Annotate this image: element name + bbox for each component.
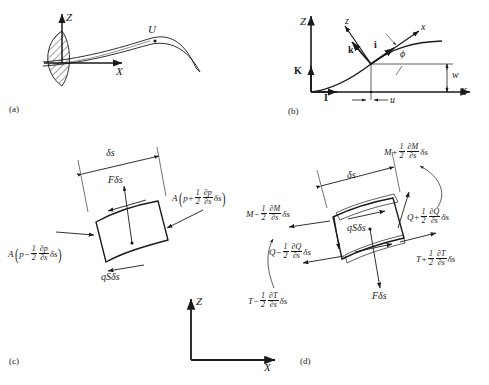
tension-minus-suffix: δs [280, 296, 288, 306]
shear-plus-derivative: ∂Q∂s [428, 208, 442, 225]
panel-c-ds-label: δs [106, 148, 115, 158]
tension-minus-expression: T−12∂T∂sδs [248, 292, 287, 309]
element-centroid [130, 241, 133, 244]
d-force-F-arrow [370, 229, 380, 288]
panel-c-graphics [56, 147, 203, 271]
panel-d-force-qS-label: qSδs [347, 223, 366, 233]
displacement-w-label: w [452, 70, 459, 80]
d-element-centroid [368, 227, 371, 230]
shear-plus-half: 12 [420, 208, 428, 225]
panel-b-tag: (b) [288, 107, 299, 116]
ds-dimension-arrow [82, 156, 159, 174]
panel-a-x-label: X [116, 66, 123, 77]
angle-phi-label: ϕ [400, 49, 405, 59]
unit-vector-I-label: I [324, 93, 328, 103]
panel-d-tag: (d) [300, 357, 311, 366]
phi-leader [396, 66, 402, 75]
velocity-label: U [148, 24, 156, 35]
shear-minus-suffix: δs [303, 247, 311, 257]
pressure-minus-open-paren: ( [15, 246, 19, 263]
pressure-minus-expression: A(p−12∂p∂sδs) [8, 245, 63, 263]
moment-minus-half: 12 [260, 205, 268, 222]
undeformed-point [370, 91, 373, 94]
panel-b-x-label: X [460, 86, 467, 97]
shared-x-label: X [264, 362, 271, 373]
pressure-plus-suffix: δs [214, 193, 222, 203]
tension-plus-half: 12 [427, 250, 435, 267]
pressure-plus-prefix: A [172, 193, 178, 203]
d-ds-ext-left [317, 170, 327, 208]
moment-minus-arrow [289, 221, 330, 227]
panel-c-force-F-label: Fδs [108, 175, 123, 185]
panel-b-graphics [311, 16, 470, 100]
pressure-plus-derivative: ∂p∂s [202, 189, 214, 206]
panel-c-force-qS-label: qSδs [101, 272, 120, 282]
d-force-qS-arrow [348, 211, 385, 219]
pressure-plus-arrow [167, 210, 203, 228]
shear-minus-expression: Q−12∂Q∂sδs [269, 243, 311, 260]
moment-minus-var: M [246, 209, 254, 219]
tension-plus-expression: T+12∂T∂sδs [416, 250, 455, 267]
shear-minus-derivative: ∂Q∂s [290, 243, 304, 260]
tension-plus-arrow [400, 233, 436, 242]
panel-d-ds-label: δs [347, 170, 356, 180]
moment-plus-expression: M+12∂M∂sδs [384, 143, 428, 160]
pressure-plus-open-paren: ( [179, 190, 183, 207]
tension-plus-suffix: δs [448, 254, 456, 264]
displacement-u-label: u [390, 95, 395, 105]
figure-canvas: Z X U (a) Z X K I k i z x ϕ w u (b) δs F… [0, 0, 489, 385]
blade-root-hatched [48, 31, 70, 86]
shared-z-label: Z [196, 296, 202, 307]
ds-ext-right [157, 147, 166, 196]
pressure-minus-prefix: A [8, 249, 14, 259]
moment-plus-suffix: δs [420, 147, 428, 157]
tension-plus-derivative: ∂T∂s [435, 250, 447, 267]
shear-minus-arrow [334, 216, 339, 249]
velocity-point [153, 39, 156, 42]
moment-plus-var: M [384, 147, 392, 157]
pressure-plus-expression: A(p+12∂p∂sδs) [172, 189, 227, 207]
pressure-minus-close-paren: ) [58, 246, 62, 263]
moment-minus-expression: M−12∂M∂sδs [246, 205, 290, 222]
figure-vector-layer [0, 0, 489, 385]
element-upper-skin [336, 194, 398, 220]
moment-plus-leader [420, 166, 442, 208]
unit-vector-i-label: i [374, 40, 377, 50]
moment-minus-suffix: δs [282, 209, 290, 219]
moment-plus-half: 12 [398, 143, 406, 160]
panel-b-z-label: Z [300, 16, 306, 27]
panel-a-z-label: Z [66, 12, 72, 23]
pressure-minus-half: 12 [30, 245, 38, 262]
local-z-label: z [345, 16, 349, 26]
moment-plus-derivative: ∂M∂s [406, 143, 421, 160]
fluid-element-outline [96, 201, 168, 262]
pressure-minus-suffix: δs [50, 249, 58, 259]
tension-minus-half: 12 [259, 292, 267, 309]
tension-minus-derivative: ∂T∂s [267, 292, 279, 309]
unit-vector-k-arrow [352, 42, 371, 64]
panel-c-tag: (c) [9, 357, 19, 366]
shear-minus-half: 12 [282, 243, 290, 260]
unit-vector-K-label: K [294, 66, 302, 76]
shear-plus-suffix: δs [441, 212, 449, 222]
shear-plus-expression: Q+12∂Q∂sδs [407, 208, 449, 225]
local-x-label: x [421, 22, 425, 32]
pressure-plus-half: 12 [194, 189, 202, 206]
tangent-leader [386, 34, 396, 45]
panel-a-tag: (a) [9, 105, 19, 114]
force-F-arrow [124, 186, 132, 243]
unit-vector-k-label: k [348, 45, 354, 55]
pressure-minus-derivative: ∂p∂s [38, 245, 50, 262]
d-ds-dimension-arrow [321, 167, 394, 186]
panel-d-force-F-label: Fδs [372, 291, 387, 301]
moment-minus-derivative: ∂M∂s [268, 205, 283, 222]
unit-vector-i-arrow [371, 48, 394, 64]
pressure-plus-close-paren: ) [222, 190, 226, 207]
ds-ext-left [78, 160, 88, 212]
pressure-minus-arrow [56, 232, 94, 235]
